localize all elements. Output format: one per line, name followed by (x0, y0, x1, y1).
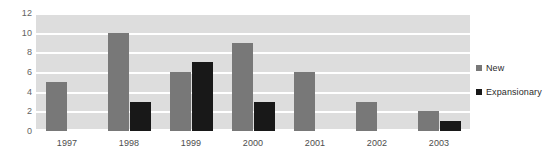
legend-entry[interactable]: Expansionary (476, 85, 560, 99)
x-axis-tick-label: 1999 (181, 139, 201, 148)
y-axis-tick-label: 10 (0, 28, 32, 37)
bar-group (36, 13, 98, 131)
bar-1998-expansionary (130, 102, 151, 132)
bar-group (98, 13, 160, 131)
bar-group (160, 13, 222, 131)
y-axis-tick-label: 2 (0, 107, 32, 116)
bar-2000-expansionary (254, 102, 275, 132)
x-axis-tick-label: 2000 (243, 139, 263, 148)
bar-1999-expansionary (192, 62, 213, 131)
plot-area (36, 13, 470, 131)
bar-chart: 121086420 1997199819992000200120022003 N… (0, 0, 560, 163)
x-axis-tick-label: 2003 (429, 139, 449, 148)
x-axis-tick-label: 2002 (367, 139, 387, 148)
x-axis-tick-label: 1998 (119, 139, 139, 148)
y-axis-tick-label: 0 (0, 127, 32, 136)
bar-group (222, 13, 284, 131)
bars-layer (36, 13, 470, 131)
y-axis-tick-label: 4 (0, 87, 32, 96)
y-axis-tick-label: 12 (0, 9, 32, 18)
bar-2002-new (356, 102, 377, 132)
bar-1999-new (170, 72, 191, 131)
bar-1998-new (108, 33, 129, 131)
bar-group (408, 13, 470, 131)
y-axis: 121086420 (0, 13, 32, 131)
bar-group (346, 13, 408, 131)
bar-2001-new (294, 72, 315, 131)
bar-1997-new (46, 82, 67, 131)
x-axis: 1997199819992000200120022003 (36, 133, 470, 153)
x-axis-tick-label: 1997 (57, 139, 77, 148)
bar-group (284, 13, 346, 131)
legend-label: Expansionary (486, 88, 542, 97)
legend-swatch-new (476, 65, 482, 71)
bar-2003-new (418, 111, 439, 131)
legend-swatch-expansionary (476, 89, 482, 95)
x-axis-tick-label: 2001 (305, 139, 325, 148)
legend-label: New (486, 64, 504, 73)
chart-legend: NewExpansionary (476, 61, 560, 109)
y-axis-tick-label: 6 (0, 68, 32, 77)
bar-2003-expansionary (440, 121, 461, 131)
y-axis-tick-label: 8 (0, 48, 32, 57)
legend-entry[interactable]: New (476, 61, 560, 75)
bar-2000-new (232, 43, 253, 132)
